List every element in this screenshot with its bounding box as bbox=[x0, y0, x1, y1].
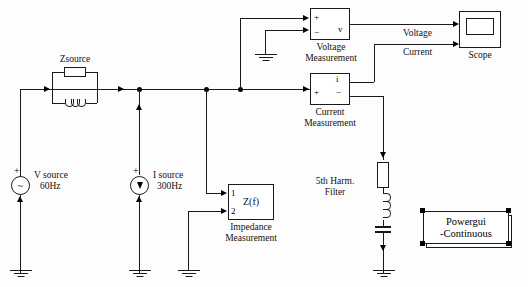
simulink-model-canvas[interactable]: Zsource ~ + V source 60Hz + I source 300… bbox=[0, 0, 528, 287]
wire-ammeter-minus-h bbox=[350, 96, 383, 97]
isource-bus-arrow bbox=[136, 104, 142, 110]
wire-impedance-port2-h bbox=[188, 211, 222, 212]
powergui-handle-bl[interactable] bbox=[420, 241, 425, 246]
filter-label-line2: Filter bbox=[302, 187, 368, 198]
impedance-port2-label: 2 bbox=[231, 207, 236, 216]
impedance-port1-arrow bbox=[221, 190, 227, 196]
ammeter-plus-label: + bbox=[314, 88, 319, 97]
ammeter-minus-label: − bbox=[336, 88, 341, 97]
ammeter-plus-arrow bbox=[303, 86, 309, 92]
voltmeter-label-line2: Measurement bbox=[294, 53, 368, 64]
wire-current-signal-h2 bbox=[374, 44, 455, 45]
powergui-label-line1: Powergui bbox=[446, 216, 486, 228]
powergui-body[interactable]: Powergui -Continuous bbox=[423, 211, 509, 244]
wire-main-bus bbox=[120, 89, 310, 90]
wire-ammeter-minus-v bbox=[383, 96, 384, 160]
wire-voltage-signal bbox=[350, 24, 455, 25]
zsource-label: Zsource bbox=[44, 54, 106, 65]
voltmeter-minus-label: − bbox=[314, 28, 319, 37]
voltage-signal-label: Voltage bbox=[403, 28, 432, 39]
wire-voltmeter-minus-v bbox=[265, 30, 266, 54]
ground-isource bbox=[129, 270, 151, 279]
i-source-symbol bbox=[130, 176, 149, 195]
impedance-label-line2: Measurement bbox=[214, 233, 288, 244]
wire-bus-to-voltmeter-plus-v bbox=[240, 18, 241, 89]
voltmeter-plus-label: + bbox=[314, 13, 319, 22]
zsource-r-lead-left bbox=[52, 72, 64, 73]
flow-arrow-into-zsource bbox=[44, 86, 50, 92]
wire-isource-to-ground bbox=[139, 195, 140, 273]
i-source-label-line2: 300Hz bbox=[157, 181, 182, 192]
voltmeter-label-line1: Voltage bbox=[300, 42, 362, 53]
wire-vsource-riser bbox=[20, 89, 21, 185]
ground-impedance bbox=[178, 270, 200, 279]
wire-voltmeter-minus-h bbox=[265, 30, 305, 31]
ground-voltmeter bbox=[255, 54, 277, 63]
powergui-handle-tr[interactable] bbox=[506, 208, 511, 213]
scope-screen-icon bbox=[466, 18, 494, 35]
zsource-inductor-icon bbox=[65, 99, 86, 107]
v-source-symbol: ~ bbox=[11, 176, 30, 195]
voltmeter-plus-arrow bbox=[303, 15, 309, 21]
ammeter-label-line1: Current bbox=[298, 107, 362, 118]
v-source-label-line1: V source bbox=[34, 170, 68, 181]
wire-vsource-to-ground bbox=[20, 195, 21, 273]
voltmeter-minus-arrow bbox=[303, 27, 309, 33]
impedance-label-line1: Impedance bbox=[214, 222, 288, 233]
impedance-port1-label: 1 bbox=[231, 189, 236, 198]
i-source-arrow-glyph bbox=[137, 182, 143, 189]
powergui-handle-br[interactable] bbox=[506, 241, 511, 246]
zsource-right-rail bbox=[97, 72, 98, 103]
ground-filter bbox=[373, 270, 395, 279]
powergui-handle-tl[interactable] bbox=[420, 208, 425, 213]
current-signal-label: Current bbox=[403, 47, 432, 58]
wire-filter-to-ground bbox=[383, 233, 384, 273]
powergui-label-line2: -Continuous bbox=[440, 228, 492, 240]
scope-label: Scope bbox=[459, 50, 501, 61]
i-source-plus-terminal: + bbox=[133, 166, 139, 176]
wire-source-to-bus bbox=[20, 89, 120, 90]
impedance-zf-text: Z(f) bbox=[243, 196, 259, 207]
zsource-left-rail bbox=[52, 72, 53, 103]
wire-bus-to-impedance-port1-v bbox=[206, 89, 207, 193]
v-source-label-line2: 60Hz bbox=[40, 181, 61, 192]
zsource-r-lead-right bbox=[86, 72, 97, 73]
v-source-plus-terminal: + bbox=[14, 166, 20, 176]
wire-current-signal-h1 bbox=[350, 82, 374, 83]
flow-arrow-out-of-zsource bbox=[118, 86, 124, 92]
filter-capacitor-icon bbox=[375, 226, 391, 233]
filter-inductor-icon bbox=[383, 193, 391, 220]
wire-current-signal-v bbox=[374, 44, 375, 82]
wire-bus-to-voltmeter-plus-h bbox=[240, 18, 305, 19]
i-source-label-line1: I source bbox=[153, 170, 183, 181]
wire-bus-to-impedance-port1-h bbox=[206, 193, 222, 194]
i-source-flow-arrow bbox=[136, 196, 142, 202]
zsource-resistor-icon bbox=[64, 67, 86, 77]
ammeter-label-line2: Measurement bbox=[293, 118, 367, 129]
ground-vsource bbox=[10, 270, 32, 279]
filter-outlet-arrow bbox=[380, 245, 386, 251]
wire-isource-riser bbox=[139, 89, 140, 175]
filter-inlet-arrow bbox=[380, 152, 386, 158]
filter-label-line1: 5th Harm. bbox=[302, 176, 368, 187]
zsource-l-lead-left bbox=[52, 103, 65, 104]
voltmeter-output-label: v bbox=[338, 25, 343, 34]
impedance-port2-arrow bbox=[221, 208, 227, 214]
zsource-l-lead-right bbox=[86, 103, 97, 104]
v-source-flow-arrow bbox=[17, 196, 23, 202]
ammeter-output-label: i bbox=[336, 75, 339, 84]
wire-impedance-port2-v bbox=[188, 211, 189, 270]
filter-resistor-icon bbox=[377, 162, 389, 188]
